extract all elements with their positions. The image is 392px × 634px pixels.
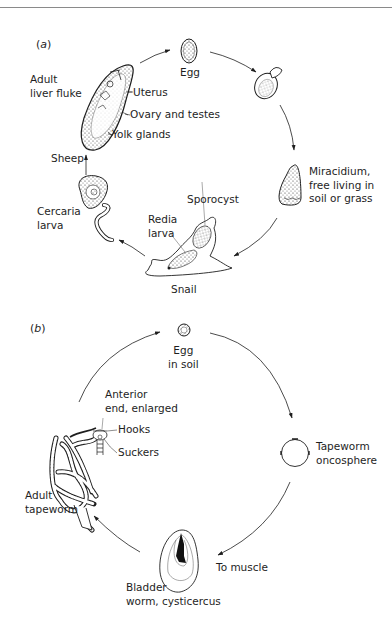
cercaria-drawing — [79, 176, 112, 240]
label-uterus: Uterus — [133, 86, 168, 100]
label-redia-larva: Redia larva — [148, 213, 177, 240]
label-suckers: Suckers — [118, 446, 159, 460]
tapeworm-egg-drawing — [178, 324, 190, 336]
label-tapeworm-oncosphere: Tapeworm oncosphere — [316, 440, 377, 467]
label-snail: Snail — [171, 283, 197, 297]
label-miracidium: Miracidium, free living in soil or grass — [309, 165, 374, 206]
panel-a-label: (a) — [36, 38, 51, 51]
label-bladder-worm: Bladder worm, cysticercus — [126, 581, 221, 608]
label-adult-liver-fluke: Adult liver fluke — [30, 73, 82, 100]
fluke-egg-drawing — [181, 39, 197, 63]
label-egg: Egg — [180, 66, 200, 80]
label-egg-in-soil: Egg in soil — [168, 344, 199, 371]
label-sheep: Sheep — [51, 152, 84, 166]
miracidium-drawing — [279, 165, 301, 205]
hatching-egg-drawing — [251, 67, 282, 102]
label-anterior-end: Anterior end, enlarged — [105, 388, 178, 415]
oncosphere-drawing — [281, 439, 309, 467]
scolex-drawing — [93, 418, 117, 455]
label-cercaria-larva: Cercaria larva — [37, 205, 81, 232]
label-sporocyst: Sporocyst — [187, 193, 239, 207]
label-yolk-glands: Yolk glands — [112, 128, 171, 142]
panel-b-label: (b) — [30, 322, 46, 335]
label-to-muscle: To muscle — [216, 561, 268, 575]
label-ovary-testes: Ovary and testes — [130, 108, 220, 122]
label-hooks: Hooks — [118, 423, 150, 437]
label-adult-tapeworm: Adult tapeworm — [25, 489, 78, 516]
